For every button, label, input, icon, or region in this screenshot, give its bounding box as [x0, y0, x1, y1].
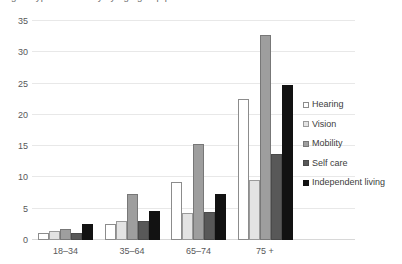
x-axis-tick-label: 75 + [256, 246, 274, 256]
y-axis-labels: 05101520253035 [0, 21, 28, 240]
legend-item: Independent living [303, 173, 402, 193]
legend-swatch-icon [303, 121, 309, 127]
x-axis-tick-label: 65–74 [186, 246, 211, 256]
bar-group [171, 21, 226, 240]
bar [182, 213, 193, 240]
y-axis-tick-label: 20 [6, 110, 28, 120]
bar [171, 182, 182, 240]
bar-groups [32, 21, 298, 240]
x-axis-tick-label: 18–34 [53, 246, 78, 256]
bar-group [238, 21, 293, 240]
legend-item: Mobility [303, 134, 402, 154]
bar-group [105, 21, 160, 240]
y-axis-tick-label: 25 [6, 79, 28, 89]
bar [60, 229, 71, 240]
bar [238, 99, 249, 240]
legend-item-label: Self care [312, 159, 348, 168]
bar [149, 211, 160, 240]
bar [193, 144, 204, 240]
bar [127, 194, 138, 240]
bar [105, 224, 116, 240]
y-axis-tick-label: 0 [6, 235, 28, 245]
bar-group [38, 21, 93, 240]
bar [260, 35, 271, 240]
y-axis-tick-label: 30 [6, 47, 28, 57]
bar [282, 85, 293, 240]
y-axis-tick-label: 15 [6, 141, 28, 151]
bar-chart: figure type of disability by age group p… [0, 0, 402, 264]
legend-swatch-icon [303, 180, 309, 186]
bar [82, 224, 93, 240]
bar [49, 231, 60, 240]
y-axis-tick-label: 5 [6, 204, 28, 214]
y-axis-tick-label: 35 [6, 16, 28, 26]
y-axis-tick-label: 10 [6, 172, 28, 182]
legend-item-label: Mobility [312, 139, 343, 148]
legend-swatch-icon [303, 102, 309, 108]
bar [271, 154, 282, 240]
chart-legend: HearingVisionMobilitySelf careIndependen… [303, 95, 402, 193]
clipped-title: figure type of disability by age group p… [6, 0, 306, 3]
bar [138, 221, 149, 240]
x-axis-tick-label: 35–64 [119, 246, 144, 256]
bar [116, 221, 127, 240]
legend-item: Self care [303, 154, 402, 174]
bar [71, 233, 82, 241]
legend-item: Vision [303, 115, 402, 135]
legend-item-label: Vision [312, 120, 336, 129]
legend-item: Hearing [303, 95, 402, 115]
x-axis-labels: 18–3435–6465–7475 + [32, 246, 298, 260]
legend-swatch-icon [303, 141, 309, 147]
bar [204, 212, 215, 240]
legend-item-label: Independent living [312, 178, 385, 187]
bar [38, 233, 49, 241]
bar [249, 180, 260, 240]
legend-item-label: Hearing [312, 100, 344, 109]
legend-swatch-icon [303, 160, 309, 166]
bar [215, 194, 226, 240]
